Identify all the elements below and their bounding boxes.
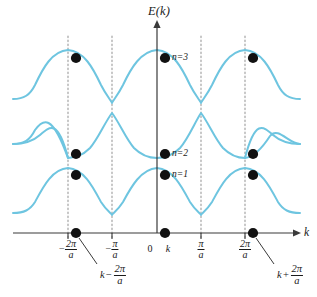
tick-label-neg-two-pi-a: −2πa <box>59 242 77 263</box>
x-axis-ticks <box>68 233 245 239</box>
y-axis-title: E(k) <box>148 5 170 18</box>
annotation-k-plus-fraction: 2πa <box>291 264 304 286</box>
state-dot-axis-k-minus-2pi-a <box>71 228 81 238</box>
state-dot-n1-k <box>160 170 170 180</box>
annotation-k-plus-denominator: a <box>291 276 304 287</box>
band-label-n3: n=3 <box>172 53 188 63</box>
tick-label-neg-pi-a-numerator: π <box>112 239 119 250</box>
tick-label-neg-pi-a-fraction: πa <box>112 239 119 260</box>
annotation-k-plus-operator: + <box>282 270 291 281</box>
annotation-k-minus-operator: − <box>105 270 114 281</box>
state-dot-n3-k-plus-2pi-a <box>248 53 258 63</box>
tick-label-pos-pi-a: πa <box>197 242 204 263</box>
band-label-n2: n=2 <box>172 149 188 159</box>
tick-label-pos-pi-a-denominator: a <box>197 250 204 260</box>
tick-label-neg-pi-a-denominator: a <box>112 250 119 260</box>
origin-k-marker-label: k <box>166 244 170 254</box>
band-label-n1-text: n=1 <box>172 169 188 179</box>
y-axis-title-text: E(k) <box>148 4 170 18</box>
band-join-left-n2 <box>13 128 68 158</box>
state-dot-axis-k-plus-2pi-a <box>248 228 258 238</box>
x-axis-arrowhead <box>293 229 301 236</box>
state-dot-n1-k-plus-2pi-a <box>248 170 258 180</box>
state-dot-n3-k <box>160 53 170 63</box>
state-dot-n1-k-minus-2pi-a <box>71 170 81 180</box>
tick-label-neg-two-pi-a-fraction: 2πa <box>65 239 77 260</box>
annotation-k-minus-two-pi-a: k−2πa <box>100 268 126 290</box>
band-label-n3-text: n=3 <box>172 52 188 62</box>
band-label-n1: n=1 <box>172 170 188 180</box>
tick-label-zero-text: 0 <box>148 243 153 254</box>
tick-label-neg-two-pi-a-numerator: 2π <box>65 239 77 250</box>
tick-label-pos-two-pi-a-numerator: 2π <box>239 239 251 250</box>
annotation-k-minus-fraction: 2πa <box>114 264 127 286</box>
annotation-k-minus-denominator: a <box>114 276 127 287</box>
band-structure-figure: E(k) k n=3 n=2 n=1 −2πa −πa 0 k πa 2πa k… <box>0 0 317 297</box>
tick-label-neg-pi-a: −πa <box>105 242 118 263</box>
tick-label-pos-two-pi-a: 2πa <box>239 242 251 263</box>
state-dot-n2-k-plus-2pi-a <box>248 149 258 159</box>
x-axis-title: k <box>304 227 309 239</box>
tick-label-pos-pi-a-numerator: π <box>197 239 204 250</box>
state-dot-n3-k-minus-2pi-a <box>71 53 81 63</box>
leader-line-k-plus-2pi-a <box>256 238 274 264</box>
state-dot-axis-k <box>160 228 170 238</box>
state-dot-n2-k <box>160 149 170 159</box>
y-axis-arrowhead <box>153 20 160 28</box>
annotation-k-plus-two-pi-a: k+2πa <box>277 268 303 290</box>
state-dot-n2-k-minus-2pi-a <box>71 149 81 159</box>
tick-label-zero: 0 <box>148 244 153 254</box>
tick-label-neg-two-pi-a-denominator: a <box>65 250 77 260</box>
origin-k-marker-text: k <box>166 243 170 254</box>
tick-label-pos-pi-a-fraction: πa <box>197 239 204 260</box>
leader-line-k-minus-2pi-a <box>79 238 97 264</box>
tick-label-pos-two-pi-a-denominator: a <box>239 250 251 260</box>
band-label-n2-text: n=2 <box>172 148 188 158</box>
x-axis-title-text: k <box>304 226 309 238</box>
band-structure-plot <box>0 0 317 297</box>
tick-label-pos-two-pi-a-fraction: 2πa <box>239 239 251 260</box>
